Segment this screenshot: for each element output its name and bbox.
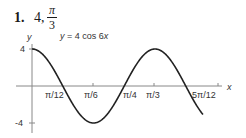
x-axis-label: x bbox=[226, 82, 232, 92]
y-tick-label-4: 4 bbox=[20, 44, 25, 54]
x-tick-label-pi-3: π/3 bbox=[146, 90, 160, 100]
chart-title: y = 4 cos 6x bbox=[59, 31, 109, 41]
y-tick-label-neg4: -4 bbox=[15, 118, 23, 128]
x-tick-label-pi-4: π/4 bbox=[123, 90, 137, 100]
cosine-graph: y x y = 4 cos 6x 4 -4 π/12 π/6 π/4 π/3 5… bbox=[0, 0, 246, 138]
x-tick-label-pi-6: π/6 bbox=[84, 90, 98, 100]
x-tick-label-5pi-12: 5π/12 bbox=[192, 90, 216, 100]
x-tick-label-pi-12: π/12 bbox=[45, 90, 64, 100]
y-axis-label: y bbox=[26, 32, 32, 42]
